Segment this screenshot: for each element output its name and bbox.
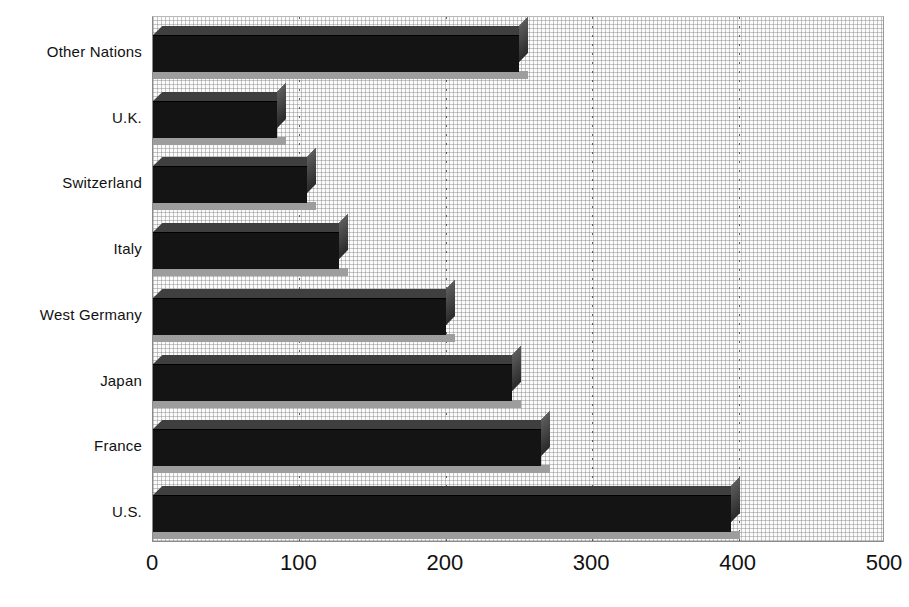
bar-front-face: [153, 495, 731, 532]
bar-shadow: [153, 202, 316, 210]
category-label: Other Nations: [47, 44, 142, 59]
bar-shadow: [153, 531, 740, 539]
bar-front-face: [153, 364, 512, 401]
bar-front-face: [153, 429, 541, 466]
bar-front-face: [153, 101, 277, 138]
bar-side-face: [541, 411, 550, 456]
plot-area: [152, 16, 884, 542]
bar-side-face: [731, 477, 740, 522]
gridline-400: [739, 17, 740, 541]
x-tick-label: 100: [280, 552, 317, 574]
bar-top-face: [153, 157, 316, 166]
x-tick-label: 400: [719, 552, 756, 574]
bar-top-face: [153, 420, 550, 429]
bar-shadow: [153, 400, 521, 408]
bar: [153, 232, 348, 268]
bar-chart: Other NationsU.K.SwitzerlandItalyWest Ge…: [0, 0, 909, 607]
bar-side-face: [277, 82, 286, 127]
bar-front-face: [153, 166, 307, 203]
category-label: U.K.: [112, 110, 142, 125]
category-label: Italy: [113, 241, 142, 256]
bar-top-face: [153, 355, 521, 364]
bar: [153, 429, 550, 465]
bar-top-face: [153, 486, 741, 495]
bar: [153, 495, 740, 531]
bar-shadow: [153, 465, 550, 473]
category-axis-labels: Other NationsU.K.SwitzerlandItalyWest Ge…: [0, 16, 142, 542]
x-tick-label: 300: [573, 552, 610, 574]
x-tick-label: 200: [426, 552, 463, 574]
bar-top-face: [153, 289, 455, 298]
gridline-300: [592, 17, 593, 541]
bar-side-face: [339, 214, 348, 259]
bar: [153, 364, 521, 400]
bar-side-face: [446, 280, 455, 325]
bar-side-face: [519, 17, 528, 62]
x-tick-label: 0: [146, 552, 158, 574]
bar: [153, 35, 528, 71]
bar-front-face: [153, 298, 446, 335]
category-label: France: [94, 438, 142, 453]
category-label: Switzerland: [62, 175, 142, 190]
bar-front-face: [153, 35, 519, 72]
category-label: Japan: [100, 373, 142, 388]
category-label: U.S.: [112, 504, 142, 519]
bar-side-face: [307, 148, 316, 193]
bar-shadow: [153, 268, 348, 276]
bar-front-face: [153, 232, 339, 269]
category-label: West Germany: [40, 307, 142, 322]
bar: [153, 298, 455, 334]
bar-top-face: [153, 92, 287, 101]
bar-shadow: [153, 137, 286, 145]
bar-side-face: [512, 345, 521, 390]
value-axis-labels: 0100200300400500: [0, 552, 909, 592]
bar-shadow: [153, 71, 528, 79]
bar-top-face: [153, 223, 348, 232]
bar: [153, 166, 316, 202]
bar: [153, 101, 286, 137]
x-tick-label: 500: [866, 552, 903, 574]
bar-top-face: [153, 26, 528, 35]
bar-shadow: [153, 334, 455, 342]
